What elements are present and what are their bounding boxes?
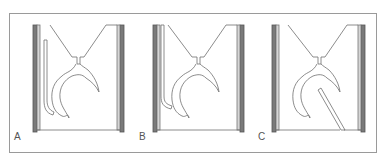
left-wall [272,25,279,132]
panel-b: B [139,25,244,142]
panel-label-a: A [14,131,21,142]
right-wall [237,25,244,132]
hook [172,64,219,118]
right-wall [117,25,124,132]
hook [293,64,340,118]
funnel [50,25,117,64]
figure-frame [10,14,377,153]
funnel [288,25,358,64]
rod [318,88,345,130]
left-wall [153,25,160,132]
right-wall [358,25,365,132]
rod [161,25,172,109]
panel-c: C [258,25,365,142]
hook [52,64,99,118]
panel-a: A [14,25,124,142]
left-wall [33,25,40,132]
funnel [168,25,237,64]
diagram-figure: A B C [0,0,383,162]
panel-label-b: B [139,131,146,142]
panel-label-c: C [258,131,265,142]
